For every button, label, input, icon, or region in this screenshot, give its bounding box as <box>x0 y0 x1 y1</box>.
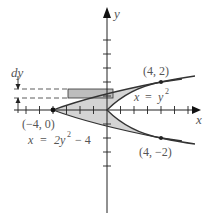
point-label-neg4-0: (−4, 0) <box>22 117 55 131</box>
svg-text:x: x <box>133 90 140 104</box>
curve-label-x-equals-2y-squared-minus-4: x = 2y 2 − 4 <box>27 130 91 147</box>
y-axis-arrow-icon <box>103 7 111 18</box>
dy-label: dy <box>11 65 24 80</box>
svg-text:=: = <box>145 90 152 104</box>
svg-text:2: 2 <box>67 130 71 139</box>
svg-text:y: y <box>157 90 164 104</box>
point-neg4-0 <box>51 108 56 113</box>
svg-text:=: = <box>40 133 47 147</box>
svg-text:x: x <box>27 133 34 147</box>
svg-text:2y: 2y <box>54 133 66 147</box>
y-axis-label: y <box>112 6 120 21</box>
point-label-4-2: (4, 2) <box>143 64 169 78</box>
diagram-canvas: y x dy (4, 2) (4, −2) (−4, 0) x = y 2 x … <box>0 0 214 217</box>
svg-text:2: 2 <box>165 87 169 96</box>
curve-label-x-equals-y-squared: x = y 2 <box>133 87 169 104</box>
svg-text:− 4: − 4 <box>75 133 91 147</box>
point-label-4-neg2: (4, −2) <box>139 145 172 159</box>
point-4-neg2 <box>159 136 163 140</box>
x-axis-label: x <box>195 112 202 127</box>
point-4-2 <box>159 80 163 84</box>
